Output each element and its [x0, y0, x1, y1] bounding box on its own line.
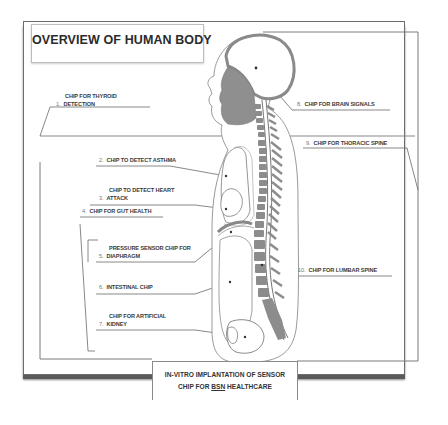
label-thoracic-text: CHIP FOR THORACIC SPINE	[313, 140, 387, 146]
label-thoracic-num: 9.	[306, 140, 310, 146]
label-diaphragm-line1: PRESSURE SENSOR CHIP FOR	[99, 245, 191, 253]
label-diaphragm-num: 5.	[99, 253, 103, 259]
label-diaphragm: PRESSURE SENSOR CHIP FOR 5.DIAPHRAGM	[99, 245, 191, 260]
label-brain-text: CHIP FOR BRAIN SIGNALS	[304, 101, 374, 107]
label-asthma: 2.CHIP TO DETECT ASTHMA	[99, 157, 176, 165]
label-lumbar: 10.CHIP FOR LUMBAR SPINE	[298, 267, 377, 275]
label-heart: CHIP TO DETECT HEART 3.ATTACK	[99, 187, 174, 202]
label-asthma-num: 2.	[99, 157, 103, 163]
label-lumbar-text: CHIP FOR LUMBAR SPINE	[308, 267, 377, 273]
label-asthma-text: CHIP TO DETECT ASTHMA	[106, 157, 176, 163]
label-heart-line2: ATTACK	[106, 195, 128, 201]
label-kidney-num: 7.	[99, 321, 103, 327]
label-gut-text: CHIP FOR GUT HEALTH	[89, 208, 151, 214]
caption-line2: CHIP FOR BSN HEALTHCARE	[152, 381, 298, 393]
label-intestinal: 6.INTESTINAL CHIP	[99, 284, 153, 292]
label-thyroid: CHIP FOR THYROID 1.DETECTION	[56, 93, 117, 108]
label-brain-num: 8.	[297, 101, 301, 107]
label-kidney: CHIP FOR ARTIFICIAL 7.KIDNEY	[99, 313, 166, 328]
body-silhouette	[208, 35, 299, 362]
label-kidney-line1: CHIP FOR ARTIFICIAL	[99, 313, 166, 321]
label-thyroid-line1: CHIP FOR THYROID	[56, 93, 117, 101]
label-heart-line1: CHIP TO DETECT HEART	[99, 187, 174, 195]
caption-line1: IN-VITRO IMPLANTATION OF SENSOR	[152, 369, 298, 381]
label-gut-num: 4.	[82, 208, 86, 214]
caption-bsn: BSN	[211, 383, 225, 390]
label-diaphragm-line2: DIAPHRAGM	[106, 253, 140, 259]
label-thyroid-num: 1.	[56, 101, 60, 107]
label-heart-num: 3.	[99, 195, 103, 201]
label-kidney-line2: KIDNEY	[106, 321, 127, 327]
caption: IN-VITRO IMPLANTATION OF SENSOR CHIP FOR…	[152, 369, 298, 393]
label-brain: 8.CHIP FOR BRAIN SIGNALS	[297, 101, 375, 109]
page-title: OVERVIEW OF HUMAN BODY	[32, 33, 212, 47]
label-intestinal-text: INTESTINAL CHIP	[106, 284, 152, 290]
caption-line2-suffix: HEALTHCARE	[225, 383, 272, 390]
label-thoracic: 9.CHIP FOR THORACIC SPINE	[306, 140, 387, 148]
label-gut: 4.CHIP FOR GUT HEALTH	[82, 208, 151, 216]
label-lumbar-num: 10.	[298, 267, 305, 273]
caption-line2-prefix: CHIP FOR	[178, 383, 211, 390]
label-thyroid-line2: DETECTION	[63, 101, 94, 107]
label-intestinal-num: 6.	[99, 284, 103, 290]
